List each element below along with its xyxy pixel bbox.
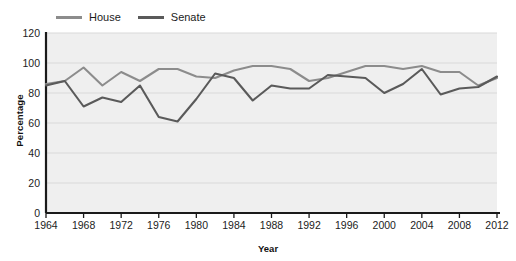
y-tick-label: 120	[8, 27, 40, 39]
x-tick-label: 2008	[448, 219, 471, 231]
legend-swatch-house	[56, 16, 82, 19]
x-tick-label: 1984	[222, 219, 245, 231]
x-tick-label: 1980	[185, 219, 208, 231]
legend-swatch-senate	[138, 16, 164, 19]
legend-label-senate: Senate	[171, 12, 206, 23]
y-tick-label: 40	[8, 147, 40, 159]
legend-label-house: House	[89, 12, 121, 23]
x-axis-title: Year	[258, 243, 278, 254]
x-tick-label: 1976	[147, 219, 170, 231]
x-tick-label: 1968	[72, 219, 95, 231]
x-tick-label: 1988	[260, 219, 283, 231]
line-chart: House Senate Percentage Year 02040608010…	[0, 0, 516, 261]
y-tick-label: 100	[8, 57, 40, 69]
y-tick-label: 80	[8, 87, 40, 99]
y-tick-label: 20	[8, 177, 40, 189]
x-tick-label: 1996	[335, 219, 358, 231]
x-tick-label: 1972	[109, 219, 132, 231]
y-tick-label: 0	[8, 207, 40, 219]
x-tick-label: 2000	[373, 219, 396, 231]
x-tick-label: 1992	[297, 219, 320, 231]
y-tick-label: 60	[8, 117, 40, 129]
legend-item-house[interactable]: House	[56, 12, 121, 23]
x-tick-label: 2004	[410, 219, 433, 231]
legend-item-senate[interactable]: Senate	[138, 12, 206, 23]
chart-legend: House Senate	[56, 9, 206, 25]
x-tick-label: 1964	[34, 219, 57, 231]
x-tick-label: 2012	[485, 219, 508, 231]
